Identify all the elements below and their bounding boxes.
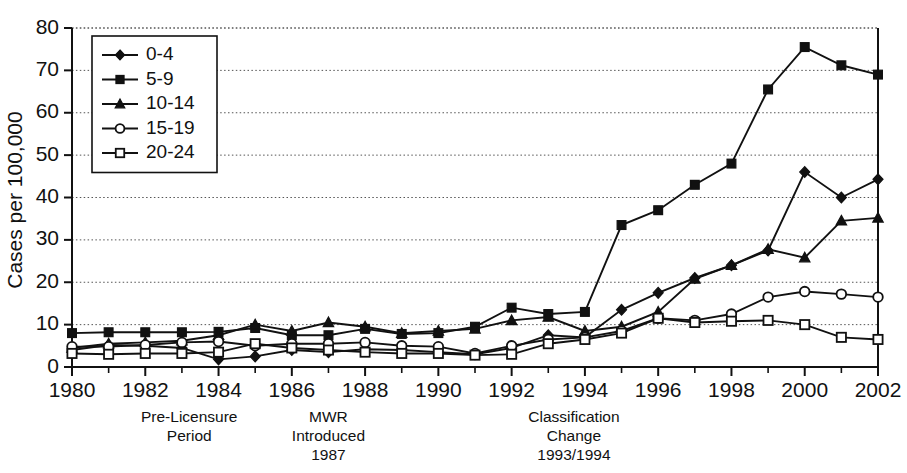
y-tick-label: 20 [36, 269, 59, 292]
chart-annotations: Pre-LicensurePeriodMWRIntroduced1987Clas… [141, 408, 620, 463]
data-point-marker [727, 159, 736, 168]
x-tick-label: 1994 [562, 378, 609, 401]
data-point-marker [250, 351, 260, 362]
data-point-marker [141, 328, 150, 337]
y-tick-label: 30 [36, 226, 59, 249]
data-point-marker [690, 318, 699, 327]
data-point-marker [141, 349, 150, 358]
data-point-marker [67, 349, 76, 358]
legend-label: 15-19 [146, 117, 195, 138]
x-tick-label: 1988 [342, 378, 389, 401]
data-point-marker [116, 149, 124, 157]
annotation-line: Period [167, 427, 212, 444]
legend-label: 20-24 [146, 141, 195, 162]
data-point-marker [800, 43, 809, 52]
x-tick-label: 1998 [708, 378, 755, 401]
data-point-marker [323, 317, 333, 327]
data-point-marker [800, 287, 810, 297]
data-point-marker [214, 337, 224, 347]
data-point-marker [837, 289, 847, 299]
data-point-marker [836, 192, 846, 203]
data-point-marker [544, 339, 553, 348]
y-tick-label: 80 [36, 15, 59, 38]
y-tick-label: 0 [47, 354, 59, 377]
data-point-marker [617, 221, 626, 230]
data-point-marker [104, 328, 113, 337]
data-point-marker [507, 350, 516, 359]
y-axis-title: Cases per 100,000 [3, 111, 26, 288]
x-tick-label: 1996 [635, 378, 682, 401]
data-point-marker [214, 348, 223, 357]
annotation-pre-licensure: Pre-LicensurePeriod [141, 408, 238, 444]
data-point-marker [116, 75, 124, 83]
annotation-line: 1993/1994 [537, 446, 611, 463]
x-tick-label: 1982 [122, 378, 169, 401]
y-tick-label: 70 [36, 57, 59, 80]
data-point-marker [360, 338, 370, 348]
y-tick-label: 60 [36, 99, 59, 122]
data-point-marker [470, 351, 479, 360]
data-point-marker [873, 292, 883, 302]
x-axis-ticks [72, 367, 878, 376]
annotation-line: Pre-Licensure [141, 408, 238, 425]
legend-label: 5-9 [146, 68, 173, 89]
y-axis-tick-labels: 01020304050607080 [36, 15, 59, 377]
data-point-marker [654, 314, 663, 323]
y-axis-ticks [64, 28, 72, 367]
data-point-marker [800, 320, 809, 329]
data-point-marker [617, 329, 626, 338]
data-point-marker [177, 338, 187, 348]
data-point-marker [800, 167, 810, 178]
x-tick-label: 1986 [268, 378, 315, 401]
data-point-marker [874, 70, 883, 79]
data-point-marker [434, 349, 443, 358]
annotation-line: 1987 [311, 446, 345, 463]
data-point-marker [360, 348, 369, 357]
data-point-marker [763, 292, 773, 302]
x-tick-label: 1984 [195, 378, 242, 401]
chart-legend: 0-45-910-1415-1920-24 [92, 36, 217, 173]
data-point-marker [324, 345, 333, 354]
series-0-4 [67, 167, 883, 365]
line-chart-canvas: 01020304050607080 1980198219841986198819… [0, 0, 907, 473]
data-point-marker [727, 317, 736, 326]
data-point-marker [251, 339, 260, 348]
data-point-marker [507, 303, 516, 312]
chart-figure: 01020304050607080 1980198219841986198819… [0, 0, 907, 473]
data-point-marker [287, 343, 296, 352]
data-point-marker [763, 316, 772, 325]
x-tick-label: 1980 [49, 378, 96, 401]
data-point-marker [581, 308, 590, 317]
data-point-marker [837, 61, 846, 70]
data-point-marker [580, 335, 589, 344]
x-tick-label: 2000 [781, 378, 828, 401]
data-point-marker [104, 350, 113, 359]
data-point-marker [397, 349, 406, 358]
annotation-mwr-introduced: MWRIntroduced1987 [292, 408, 365, 463]
annotation-line: Introduced [292, 427, 365, 444]
x-axis-tick-labels: 1980198219841986198819901992199419961998… [49, 378, 902, 401]
legend-label: 0-4 [146, 43, 174, 64]
data-point-marker [653, 287, 663, 298]
x-tick-label: 1992 [488, 378, 535, 401]
annotation-line: Classification [528, 408, 619, 425]
series-20-24 [67, 314, 882, 360]
data-point-marker [654, 206, 663, 215]
data-point-marker [68, 329, 77, 338]
data-point-marker [873, 174, 883, 185]
data-point-marker [116, 124, 125, 133]
y-tick-label: 50 [36, 142, 59, 165]
x-tick-label: 1990 [415, 378, 462, 401]
y-tick-label: 10 [36, 311, 59, 334]
data-point-marker [690, 180, 699, 189]
data-point-marker [177, 349, 186, 358]
annotation-classification-change: ClassificationChange1993/1994 [528, 408, 619, 463]
data-point-marker [837, 333, 846, 342]
annotation-line: MWR [309, 408, 348, 425]
x-tick-label: 2002 [855, 378, 902, 401]
data-point-marker [764, 85, 773, 94]
data-point-marker [873, 335, 882, 344]
legend-label: 10-14 [146, 92, 195, 113]
y-tick-label: 40 [36, 184, 59, 207]
annotation-line: Change [547, 427, 601, 444]
